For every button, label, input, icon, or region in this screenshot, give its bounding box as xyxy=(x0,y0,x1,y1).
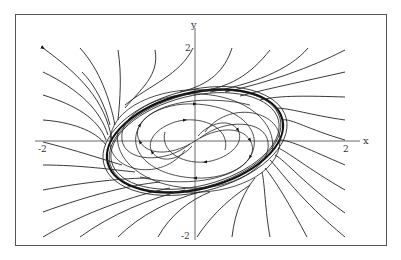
axes xyxy=(35,28,360,240)
y-tick-neg2: -2 xyxy=(181,232,190,241)
outer-bottom-right xyxy=(197,140,345,237)
x-tick-neg2: -2 xyxy=(38,145,47,154)
outer-bottom-left xyxy=(43,142,210,237)
x-axis-label: x xyxy=(363,136,369,146)
streamlines xyxy=(43,48,345,237)
y-axis-label: y xyxy=(191,20,197,30)
phase-portrait-plot xyxy=(0,0,401,260)
x-tick-2: 2 xyxy=(343,145,349,154)
y-tick-2: 2 xyxy=(185,44,191,53)
